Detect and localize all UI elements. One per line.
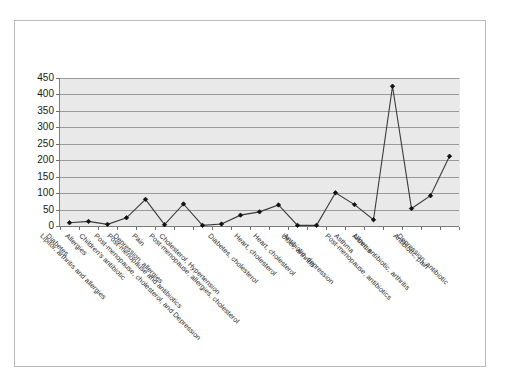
data-point-marker — [257, 210, 261, 214]
data-point-marker — [67, 221, 71, 225]
data-point-marker — [219, 222, 223, 226]
chart-figure: 050100150200250300350400450 DiabetesAlle… — [14, 20, 486, 367]
data-point-marker — [390, 84, 394, 88]
data-point-marker — [86, 219, 90, 223]
data-point-marker — [447, 154, 451, 158]
data-point-marker — [105, 222, 109, 226]
plot-wrapper: 050100150200250300350400450 DiabetesAlle… — [15, 21, 487, 368]
data-point-marker — [314, 223, 318, 227]
data-series-line — [15, 21, 487, 368]
series-markers — [67, 84, 451, 228]
data-point-marker — [238, 213, 242, 217]
series-polyline — [70, 86, 450, 225]
